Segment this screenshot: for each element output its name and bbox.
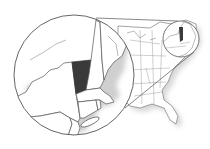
magnifier-connector-top	[96, 18, 178, 21]
magnified-circle	[14, 12, 134, 140]
locator-map	[0, 0, 210, 149]
